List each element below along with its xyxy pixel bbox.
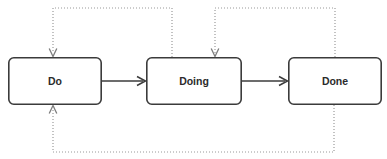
edge-done-back-to-do-line — [53, 105, 334, 152]
node-do-label: Do — [48, 75, 62, 87]
diagram-canvas: Do Doing Done — [0, 0, 387, 159]
edge-doing-back-to-do — [49, 8, 172, 57]
node-do[interactable]: Do — [9, 58, 101, 104]
node-done-label: Done — [322, 75, 348, 87]
node-doing-label: Doing — [179, 75, 209, 87]
workflow-diagram: Do Doing Done — [0, 0, 387, 159]
edge-done-back-to-doing-line — [215, 8, 335, 57]
edge-doing-back-to-do-line — [53, 8, 172, 57]
node-done[interactable]: Done — [289, 58, 381, 104]
edge-doing-to-done — [242, 77, 288, 86]
edge-done-back-to-doing — [211, 8, 335, 57]
edge-done-back-to-do — [49, 105, 334, 152]
node-doing[interactable]: Doing — [147, 58, 241, 104]
edge-done-back-to-do-arrowhead — [49, 106, 57, 114]
edge-do-to-doing — [102, 77, 146, 86]
edge-doing-back-to-do-arrowhead — [49, 49, 57, 57]
